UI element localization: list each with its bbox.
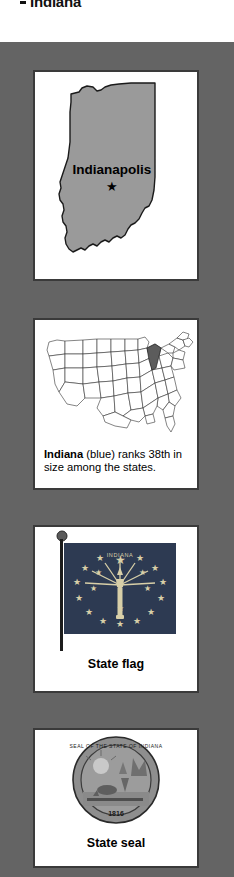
svg-text:★: ★ xyxy=(75,593,83,603)
svg-text:★: ★ xyxy=(96,553,104,563)
svg-text:★: ★ xyxy=(151,563,159,573)
svg-text:★: ★ xyxy=(144,584,151,593)
seal-date: 1816 xyxy=(108,810,124,817)
us-map-svg xyxy=(35,320,197,444)
flag-pole xyxy=(60,539,63,651)
svg-text:★: ★ xyxy=(90,584,97,593)
us-states-group xyxy=(47,332,193,432)
capital-star-icon: ★ xyxy=(106,179,118,194)
us-map-body: Indiana (blue) ranks 38th in size among … xyxy=(35,320,197,475)
panel-strip: Indianapolis ★ xyxy=(0,42,234,877)
svg-text:★: ★ xyxy=(139,568,146,577)
us-map-caption: Indiana (blue) ranks 38th in size among … xyxy=(35,448,197,475)
svg-text:★: ★ xyxy=(95,568,102,577)
flag-arc-text: INDIANA xyxy=(107,552,134,558)
seal-label: State seal xyxy=(35,836,197,850)
svg-text:★: ★ xyxy=(117,604,124,613)
svg-text:★: ★ xyxy=(133,616,141,626)
seal-svg: SEAL OF THE STATE OF INDIANA 1816 xyxy=(35,730,197,830)
svg-text:★: ★ xyxy=(157,593,165,603)
flag-body: ★ ★ ★ ★ ★ ★ ★ ★ ★ ★ ★ ★ ★ ★ ★ ★ ★ xyxy=(35,527,197,671)
svg-text:★: ★ xyxy=(136,553,144,563)
capital-label: Indianapolis xyxy=(73,162,152,177)
state-map-body: Indianapolis ★ xyxy=(35,72,197,279)
svg-text:★: ★ xyxy=(81,563,89,573)
svg-text:★: ★ xyxy=(85,607,93,617)
svg-text:★: ★ xyxy=(116,619,124,629)
svg-text:★: ★ xyxy=(73,577,81,587)
flag-label: State flag xyxy=(35,657,197,671)
svg-text:★: ★ xyxy=(99,616,107,626)
state-map-svg: Indianapolis ★ xyxy=(35,72,197,279)
seal-body: SEAL OF THE STATE OF INDIANA 1816 State … xyxy=(35,730,197,850)
caption-state-name: Indiana xyxy=(44,448,83,460)
card-state-map[interactable]: Indianapolis ★ xyxy=(33,70,199,281)
page-title: Indiana xyxy=(0,0,234,10)
card-flag[interactable]: ★ ★ ★ ★ ★ ★ ★ ★ ★ ★ ★ ★ ★ ★ ★ ★ ★ xyxy=(33,525,199,693)
svg-text:★: ★ xyxy=(159,577,167,587)
svg-text:★: ★ xyxy=(147,607,155,617)
seal-ring-text: SEAL OF THE STATE OF INDIANA xyxy=(70,743,163,749)
card-us-map[interactable]: Indiana (blue) ranks 38th in size among … xyxy=(33,318,199,490)
flag-svg: ★ ★ ★ ★ ★ ★ ★ ★ ★ ★ ★ ★ ★ ★ ★ ★ ★ xyxy=(35,527,197,655)
card-seal[interactable]: SEAL OF THE STATE OF INDIANA 1816 State … xyxy=(33,728,199,868)
